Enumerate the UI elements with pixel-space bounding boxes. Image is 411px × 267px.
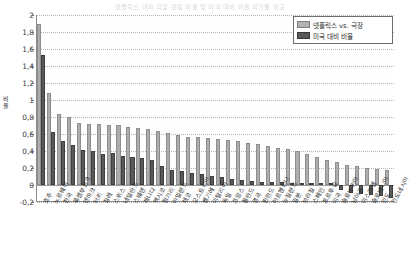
y-tick-label: 0 — [4, 181, 34, 190]
gridline — [37, 83, 394, 84]
gridline — [37, 168, 394, 169]
gridline — [37, 49, 394, 50]
y-tick-label: -0,2 — [4, 198, 34, 207]
y-tick-mark — [31, 66, 34, 67]
y-tick-mark — [31, 32, 34, 33]
y-tick-mark — [31, 117, 34, 118]
y-tick-label: 0,8 — [4, 113, 34, 122]
legend-label: 미국 대비 비율 — [313, 31, 353, 41]
x-axis-tick-labels: 호주노르웨이한국룩셈부르크덴마크터키칠레스위스네덜란드스웨덴캐나다멕시코헝가리아… — [36, 202, 394, 264]
y-tick-mark — [31, 151, 34, 152]
y-tick-mark — [31, 83, 34, 84]
y-tick-mark — [31, 15, 34, 16]
x-tick-label: 인도네시아 — [391, 175, 410, 205]
y-tick-mark — [31, 100, 34, 101]
y-tick-mark — [31, 49, 34, 50]
y-tick-mark — [31, 202, 34, 203]
legend-item[interactable]: 미국 대비 비율 — [297, 30, 389, 41]
legend-label: 넷플릭스 vs. 극장 — [313, 20, 363, 30]
gridline — [37, 66, 394, 67]
y-tick-label: 2 — [4, 11, 34, 20]
legend-swatch-icon — [297, 21, 310, 28]
y-tick-label: 1,4 — [4, 62, 34, 71]
y-axis-tick-labels: 21,81,61,41,210,80,60,40,20-0,2 — [0, 15, 34, 202]
y-tick-label: 1,8 — [4, 28, 34, 37]
legend-swatch-icon — [297, 32, 310, 39]
chart-title: 넷플릭스 대비 극장 관람 비율 및 미국 대비 비율 국가별 비교 — [0, 0, 400, 13]
gridline — [37, 117, 394, 118]
y-tick-label: 0,2 — [4, 164, 34, 173]
y-tick-label: 1,2 — [4, 79, 34, 88]
y-tick-mark — [31, 168, 34, 169]
y-tick-mark — [31, 185, 34, 186]
y-tick-label: 0,6 — [4, 130, 34, 139]
y-tick-label: 0,4 — [4, 147, 34, 156]
gridline — [37, 134, 394, 135]
y-tick-label: 1,6 — [4, 45, 34, 54]
gridline — [37, 151, 394, 152]
y-tick-label: 1 — [4, 96, 34, 105]
legend-item[interactable]: 넷플릭스 vs. 극장 — [297, 19, 389, 30]
chart-legend: 넷플릭스 vs. 극장미국 대비 비율 — [293, 16, 393, 44]
gridline — [37, 100, 394, 101]
y-tick-mark — [31, 134, 34, 135]
